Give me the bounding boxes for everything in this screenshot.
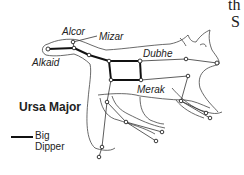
diagram-title: Ursa Major — [19, 101, 81, 113]
star-back-paw-1 — [160, 130, 164, 134]
star-front-paw-1 — [204, 111, 208, 115]
star-megrez — [107, 59, 111, 63]
star-head — [184, 57, 188, 61]
star-mizar — [72, 46, 76, 50]
label-dubhe: Dubhe — [143, 49, 172, 59]
legend-label: Big Dipper — [35, 130, 64, 152]
label-merak: Merak — [137, 85, 165, 95]
star-phecda — [109, 78, 113, 82]
big-dipper-lines — [48, 48, 141, 80]
star-alioth — [87, 53, 91, 57]
star-dubhe — [138, 59, 142, 63]
star-front-knee — [179, 99, 183, 103]
star-alcor — [71, 40, 75, 44]
cropped-text-line1: th — [228, 0, 240, 13]
star-front-paw-2 — [208, 116, 212, 120]
legend-label-line1: Big — [35, 130, 64, 141]
star-tail-leg-2 — [97, 155, 101, 159]
star-tail-leg-1 — [100, 145, 104, 149]
cropped-text-line2: S — [231, 14, 240, 30]
star-front-shoulder — [186, 74, 190, 78]
star-alkaid — [46, 47, 50, 51]
label-alkaid: Alkaid — [32, 58, 59, 68]
star-nose — [215, 61, 219, 65]
label-mizar: Mizar — [99, 32, 123, 42]
star-back-hip — [105, 100, 109, 104]
legend-line-swatch — [11, 136, 33, 138]
label-alcor: Alcor — [62, 27, 85, 37]
star-back-knee — [124, 120, 128, 124]
star-back-paw-2 — [154, 139, 158, 143]
star-merak — [139, 78, 143, 82]
legend-label-line2: Dipper — [35, 141, 64, 152]
